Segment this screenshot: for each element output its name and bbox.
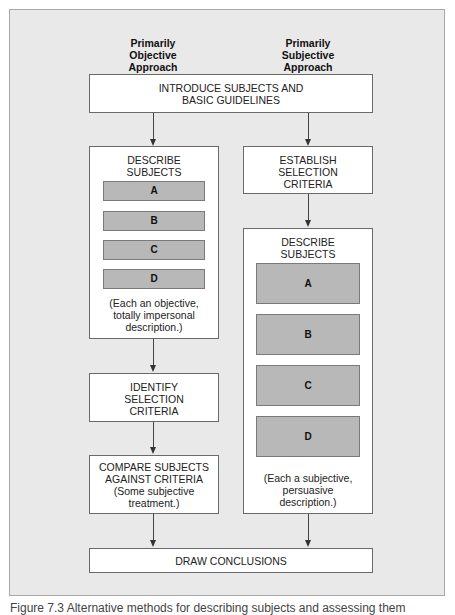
arrow-down-icon xyxy=(305,220,311,227)
connector-line xyxy=(153,113,154,140)
arrow-down-icon xyxy=(305,540,311,547)
establish-line: ESTABLISH xyxy=(244,154,372,166)
subject-label: A xyxy=(150,185,157,197)
draw-conclusions-box: DRAW CONCLUSIONS xyxy=(89,548,373,573)
note-line: totally impersonal xyxy=(90,309,218,321)
header-objective-approach: Primarily Objective Approach xyxy=(98,37,208,73)
compare-line: COMPARE SUBJECTS xyxy=(90,461,218,473)
establish-criteria-box: ESTABLISH SELECTION CRITERIA xyxy=(243,146,373,194)
connector-line xyxy=(308,194,309,221)
subjective-note: (Each a subjective, persuasive descripti… xyxy=(244,472,372,508)
subject-c-block: C xyxy=(103,240,205,260)
describe-title-line: DESCRIBE xyxy=(90,154,218,166)
compare-line: (Some subjective xyxy=(90,485,218,497)
subject-d-block: D xyxy=(103,269,205,289)
identify-line: CRITERIA xyxy=(90,405,218,417)
arrow-down-icon xyxy=(150,540,156,547)
subject-label: D xyxy=(150,273,157,285)
subject-c-block: C xyxy=(256,365,360,406)
compare-line: AGAINST CRITERIA xyxy=(90,473,218,485)
subject-label: B xyxy=(304,329,311,341)
header-line: Primarily xyxy=(253,37,363,49)
subject-b-block: B xyxy=(256,314,360,355)
establish-line: CRITERIA xyxy=(244,178,372,190)
arrow-down-icon xyxy=(150,365,156,372)
objective-note: (Each an objective, totally impersonal d… xyxy=(90,297,218,333)
figure-caption: Figure 7.3 Alternative methods for descr… xyxy=(10,601,406,615)
right-describe-subjects-box: DESCRIBE SUBJECTS A B C D (Each a subjec… xyxy=(243,228,373,514)
subject-d-block: D xyxy=(256,416,360,457)
subject-label: C xyxy=(304,380,311,392)
subject-a-block: A xyxy=(103,181,205,201)
connector-line xyxy=(153,514,154,541)
intro-line: BASIC GUIDELINES xyxy=(90,94,372,106)
connector-line xyxy=(153,339,154,366)
header-line: Objective xyxy=(98,49,208,61)
note-line: (Each an objective, xyxy=(90,297,218,309)
subject-label: C xyxy=(150,244,157,256)
header-line: Primarily xyxy=(98,37,208,49)
subject-label: A xyxy=(304,278,311,290)
compare-subjects-box: COMPARE SUBJECTS AGAINST CRITERIA (Some … xyxy=(89,455,219,514)
note-line: description.) xyxy=(90,321,218,333)
identify-line: SELECTION xyxy=(90,393,218,405)
establish-line: SELECTION xyxy=(244,166,372,178)
describe-title-line: DESCRIBE xyxy=(244,236,372,248)
header-line: Subjective xyxy=(253,49,363,61)
identify-criteria-box: IDENTIFY SELECTION CRITERIA xyxy=(89,373,219,422)
header-line: Approach xyxy=(98,61,208,73)
subject-a-block: A xyxy=(256,263,360,304)
left-describe-subjects-box: DESCRIBE SUBJECTS A B C D (Each an objec… xyxy=(89,146,219,339)
intro-box: INTRODUCE SUBJECTS AND BASIC GUIDELINES xyxy=(89,74,373,113)
header-line: Approach xyxy=(253,61,363,73)
connector-line xyxy=(153,422,154,448)
describe-title-line: SUBJECTS xyxy=(90,166,218,178)
header-subjective-approach: Primarily Subjective Approach xyxy=(253,37,363,73)
connector-line xyxy=(308,113,309,140)
subject-b-block: B xyxy=(103,211,205,231)
note-line: persuasive xyxy=(244,484,372,496)
identify-line: IDENTIFY xyxy=(90,381,218,393)
draw-conclusions-label: DRAW CONCLUSIONS xyxy=(90,555,372,567)
note-line: description.) xyxy=(244,496,372,508)
connector-line xyxy=(308,514,309,541)
arrow-down-icon xyxy=(305,139,311,146)
compare-line: treatment.) xyxy=(90,497,218,509)
intro-line: INTRODUCE SUBJECTS AND xyxy=(90,82,372,94)
arrow-down-icon xyxy=(150,447,156,454)
subject-label: D xyxy=(304,431,311,443)
arrow-down-icon xyxy=(150,139,156,146)
subject-label: B xyxy=(150,215,157,227)
describe-title-line: SUBJECTS xyxy=(244,248,372,260)
note-line: (Each a subjective, xyxy=(244,472,372,484)
